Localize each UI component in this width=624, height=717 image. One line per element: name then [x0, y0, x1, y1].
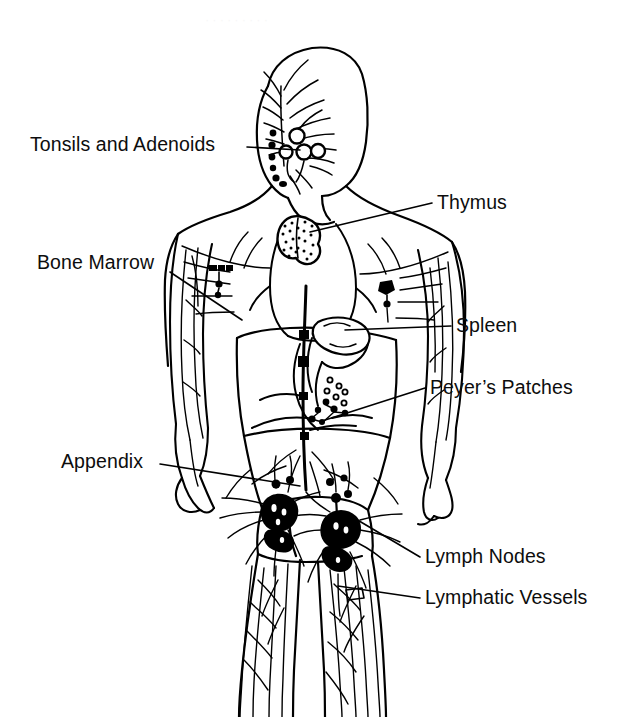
lymphatic-system-figure: ········· — [0, 0, 624, 717]
spleen-organ — [313, 318, 370, 369]
leader-peyers — [322, 388, 425, 421]
thymus-organ — [277, 216, 320, 264]
label-spleen: Spleen — [456, 316, 517, 336]
thoracic-duct — [303, 286, 306, 490]
left-arm-vessels — [181, 248, 203, 486]
label-lymph-nodes: Lymph Nodes — [425, 547, 546, 567]
head-vessels — [261, 60, 336, 194]
label-appendix: Appendix — [61, 452, 143, 472]
label-bone-marrow: Bone Marrow — [37, 253, 154, 273]
leg-vessels — [240, 564, 380, 717]
torso-outline — [165, 234, 466, 510]
anatomy-illustration — [0, 0, 624, 717]
tonsil-nodes — [268, 129, 325, 188]
scan-artifact: ········· — [205, 12, 271, 27]
label-tonsils-and-adenoids: Tonsils and Adenoids — [30, 135, 215, 155]
right-arm-vessels — [428, 258, 453, 488]
legs-outline — [239, 554, 386, 717]
label-lymphatic-vessels: Lymphatic Vessels — [425, 588, 587, 608]
label-thymus: Thymus — [437, 193, 507, 213]
label-peyers-patches: Peyer’s Patches — [430, 378, 573, 398]
peyers-patches — [308, 377, 348, 425]
